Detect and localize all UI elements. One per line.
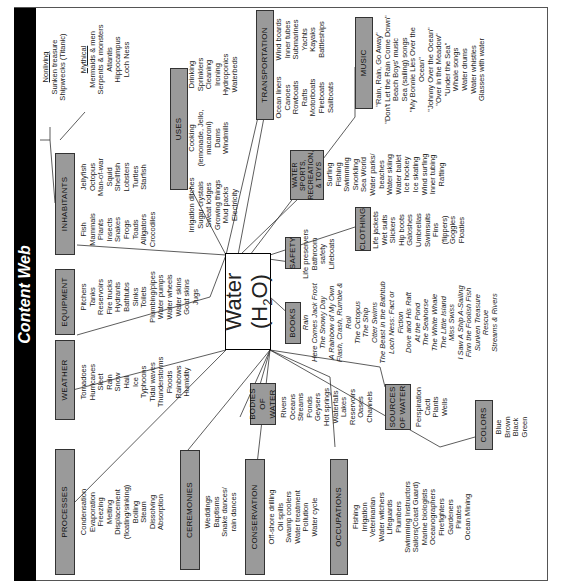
uses-list-3: Drinking Sprinklers Cleaning Ironing Hyd… (188, 47, 240, 102)
category-processes: PROCESSES (55, 449, 75, 575)
list-item: Battleships (318, 12, 327, 67)
list-item: Streams & Rivers (491, 280, 500, 365)
bodies-of-water-list: Rivers Oceans Streams Ponds Geysers Hot … (280, 377, 375, 437)
center-subscript: 2 (260, 299, 275, 306)
music-list: "Rain, Rain, Go Away" "Don't Let the Rai… (375, 7, 487, 132)
category-weather: WEATHER (55, 340, 75, 420)
water-sports-list: Surfing Fishing Swimming Snorkling Sea W… (326, 142, 446, 207)
inhabitants-list-1: Fish Mammals Plants Insects Snakes Frogs… (80, 207, 157, 252)
ceremonies-list: Weddings Baptisms Snake dances/ rain dan… (204, 467, 238, 557)
category-label: CLOTHING (358, 208, 368, 251)
category-label: WEATHER (60, 360, 70, 401)
category-label: USES (174, 118, 184, 141)
category-water-sports: WATER SPORTS, RECREATION, & TOYS (290, 150, 324, 200)
category-conservation: CONSERVATION (245, 459, 265, 575)
category-label: COLORS (479, 408, 489, 443)
list-item: Sailboats (327, 70, 336, 125)
category-ceremonies: CEREMONIES (180, 450, 200, 570)
category-label: BODIES OF WATER (248, 384, 278, 424)
category-label: TRANSPORTATION (260, 27, 270, 102)
category-clothing: CLOTHING (355, 207, 371, 251)
list-item: Ocean Mining (464, 462, 473, 572)
list-item: Starfish (140, 152, 149, 202)
list-item: Lifeboats (328, 225, 337, 283)
processes-list: Condensation Evaporation Freezing Meltin… (80, 457, 166, 567)
books-list: Rain Here Comes Jack Frost The Snowy Day… (302, 280, 500, 365)
weather-list: Tornadoes Hurricanes Sleet Rain Snow Hai… (80, 337, 192, 427)
list-item: Loch Ness (123, 12, 132, 107)
category-label: OCCUPATIONS (334, 487, 344, 547)
list-item: Absorption (157, 457, 166, 567)
category-music: MUSIC (355, 17, 373, 109)
list-item: Water cycle (311, 467, 320, 567)
category-inhabitants: INHABITANTS (55, 153, 75, 255)
safety-list: Life preservers Bathroom safety Lifeboat… (302, 225, 336, 283)
category-equipment: EQUIPMENT (55, 269, 75, 335)
list-item: Glasses with water (478, 7, 487, 132)
category-label: MUSIC (359, 50, 369, 77)
category-label: BOOKS (288, 308, 298, 337)
uses-list-2: Cooking (lemonade, Jello, macaroni) Dams… (188, 107, 231, 169)
category-label: INHABITANTS (60, 177, 70, 232)
category-colors: COLORS (475, 400, 493, 450)
colors-list: Blue Brown Black Green (495, 407, 529, 447)
category-label: SOURCES OF WATER (388, 385, 408, 429)
uses-list-1: Irrigation ditches Sugar crystals Sweat … (188, 175, 240, 235)
center-tail: O) (247, 274, 272, 298)
inhabitants-list-2: Jellyfish Octopus Man-of-war Squid Shell… (80, 152, 149, 202)
central-topic-label: Water (H2O) (221, 254, 275, 349)
list-item: Wells (441, 377, 450, 437)
category-label: CONSERVATION (250, 484, 260, 549)
list-item: rain dances (230, 467, 239, 557)
occupations-list: Fishing Irrigation Veterinarian Water wi… (352, 462, 472, 572)
category-transportation: TRANSPORTATION (256, 10, 274, 120)
category-safety: SAFETY (285, 237, 301, 269)
category-bodies-of-water: BODIES OF WATER (250, 383, 276, 425)
category-occupations: OCCUPATIONS (330, 459, 348, 575)
clothing-list: Life jackets Wet suits Slickers Hip boot… (372, 201, 467, 259)
list-item: Green (521, 407, 530, 447)
category-label: PROCESSES (60, 486, 70, 538)
list-item: Channels (366, 377, 375, 437)
category-label: EQUIPMENT (60, 277, 70, 326)
list-item: Electricity (231, 175, 240, 235)
transportation-list-1: Ocean liners Canoes Rowboats Rafts Motor… (275, 70, 335, 125)
nonliving-list: Nonliving Sunken treasure Shipwrecks (Ti… (42, 17, 68, 117)
sources-of-water-list: Perspiration Cacti Plants Wells (415, 377, 449, 437)
category-label: WATER SPORTS, RECREATION, & TOYS (291, 150, 323, 200)
mythical-list: Mythical Mermaids & men Serpents & monst… (80, 12, 132, 107)
list-item: Crocodiles (149, 207, 158, 252)
list-item: Windmills (222, 107, 231, 169)
category-uses: USES (170, 68, 188, 190)
transportation-list-2: Wind boards Inner tubes Submarines Yacht… (275, 12, 327, 67)
category-books: BOOKS (285, 302, 301, 344)
category-sources-of-water: SOURCES OF WATER (385, 384, 411, 430)
conservation-list: Off-shore drilling Oil spills Swamp cool… (268, 467, 320, 567)
central-topic-water: Water (H2O) (225, 253, 271, 350)
content-web-page: Content Web (0, 0, 561, 587)
category-label: SAFETY (288, 237, 298, 269)
equipment-list: Pitchers Tanks Reservoirs Fire trucks Hy… (80, 262, 200, 332)
list-item: Rafting (438, 142, 447, 207)
list-item: Humidity (183, 337, 192, 427)
list-item: Shipwrecks (Titanic) (59, 17, 68, 117)
category-label: CEREMONIES (185, 482, 195, 538)
list-item: Waterbeds (231, 47, 240, 102)
list-item: Floaties (458, 201, 467, 259)
list-item: Jugs (192, 262, 201, 332)
